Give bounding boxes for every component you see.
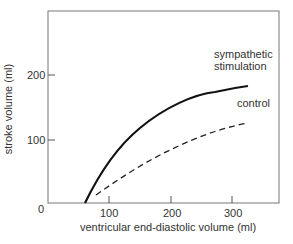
y-tick-label-100: 100 xyxy=(27,134,45,146)
legend-control: control xyxy=(237,97,270,109)
legend-sympathetic-line2: stimulation xyxy=(214,60,267,72)
x-tick-label-100: 100 xyxy=(100,207,118,219)
x-tick-label-0: 0 xyxy=(38,203,44,215)
control-curve xyxy=(96,123,248,195)
legend-sympathetic-line1: sympathetic xyxy=(214,48,273,60)
x-tick-label-300: 300 xyxy=(224,207,242,219)
x-tick-label-200: 200 xyxy=(163,207,181,219)
y-axis-title: stroke volume (ml) xyxy=(2,64,14,154)
y-tick-label-200: 200 xyxy=(27,69,45,81)
sympathetic-curve xyxy=(85,86,248,203)
x-axis-title: ventricular end-diastolic volume (ml) xyxy=(80,221,256,233)
